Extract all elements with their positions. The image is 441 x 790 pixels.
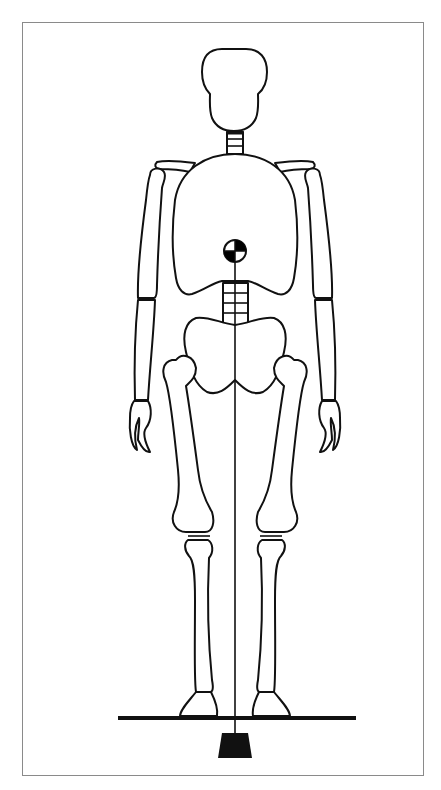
left-tibia xyxy=(185,540,213,692)
left-hand xyxy=(130,401,151,452)
cervical-spine xyxy=(226,132,244,154)
right-humerus xyxy=(305,168,332,298)
right-hand xyxy=(319,401,340,452)
skeleton-diagram xyxy=(0,0,441,790)
left-foot xyxy=(180,692,217,716)
left-forearm xyxy=(135,300,155,400)
plumb-weight xyxy=(218,733,252,758)
ground-line xyxy=(118,716,356,720)
right-tibia xyxy=(257,540,285,692)
left-humerus xyxy=(138,168,165,298)
right-forearm xyxy=(315,300,335,400)
right-foot xyxy=(253,692,290,716)
skull xyxy=(202,49,267,131)
center-of-gravity-marker xyxy=(224,240,246,262)
